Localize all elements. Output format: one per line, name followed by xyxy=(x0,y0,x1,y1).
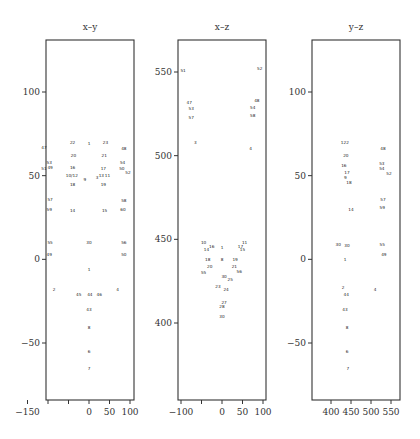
data-point-label: 23 xyxy=(103,140,109,145)
data-point-label: 14 xyxy=(348,207,354,212)
data-point-label: 4 xyxy=(249,146,252,151)
x-tick-label: 550 xyxy=(382,407,399,417)
data-point-label: 1 xyxy=(221,245,224,250)
data-point-label: 18 xyxy=(205,257,211,262)
y-tick-label: 0 xyxy=(34,254,40,264)
data-point-label: 1 xyxy=(344,257,347,262)
data-point-label: 45 xyxy=(76,292,82,297)
data-point-label: 54 xyxy=(250,105,256,110)
data-point-label: 30 xyxy=(219,314,225,319)
data-point-label: 8 xyxy=(346,325,349,330)
y-tick-label: 450 xyxy=(155,234,172,244)
data-point-label: 19 xyxy=(232,257,238,262)
data-point-label: 3 xyxy=(194,140,197,145)
data-point-label: 54 xyxy=(379,166,385,171)
data-point-label: 30 xyxy=(344,243,350,248)
y-tick-label: 50 xyxy=(29,171,41,181)
data-point-label: 15 xyxy=(102,208,108,213)
data-point-label: 18 xyxy=(70,182,76,187)
data-point-label: 23 xyxy=(215,284,221,289)
data-point-label: 18 xyxy=(346,180,352,185)
panel-x-y: x–y −150050100100500−50 2212347482021535… xyxy=(15,22,139,417)
data-point-label: 57 xyxy=(47,197,53,202)
data-point-label: 51 xyxy=(180,68,186,73)
points-x-y: 2212347482021535451491617505210/12131139… xyxy=(41,140,131,371)
data-point-label: 16 xyxy=(209,244,215,249)
data-point-label: 55 xyxy=(47,240,53,245)
data-point-label: 43 xyxy=(86,307,92,312)
data-point-label: 8 xyxy=(88,325,91,330)
data-point-label: 49 xyxy=(381,252,387,257)
x-tick-label: 50 xyxy=(237,407,249,417)
data-point-label: 44 xyxy=(87,292,93,297)
data-point-label: 25 xyxy=(228,277,234,282)
data-point-label: 22 xyxy=(344,140,350,145)
data-point-label: 58 xyxy=(250,113,256,118)
data-point-label: 48 xyxy=(380,146,386,151)
axes-x-z: −100050100550500450400 xyxy=(155,67,272,417)
data-point-label: 56 xyxy=(237,269,243,274)
data-point-label: 48 xyxy=(254,98,260,103)
data-point-label: 53 xyxy=(189,106,195,111)
x-tick-label: 0 xyxy=(86,407,92,417)
data-point-label: 47 xyxy=(41,145,47,150)
panel-title-y-z: y–z xyxy=(348,22,364,32)
points-x-z: 5152474853545758341011141617151188192021… xyxy=(180,66,262,319)
x-tick-label: 100 xyxy=(254,407,271,417)
panel-title-x-y: x–y xyxy=(83,22,99,32)
x-tick-label: 50 xyxy=(104,407,116,417)
panel-x-z: x–z −100050100550500450400 5152474853545… xyxy=(155,22,272,417)
data-point-label: 9 xyxy=(84,177,87,182)
data-point-label: 1 xyxy=(88,267,91,272)
y-tick-label: 550 xyxy=(155,67,172,77)
data-point-label: 17 xyxy=(101,166,107,171)
data-point-label: 49 xyxy=(47,165,53,170)
data-point-label: 2 xyxy=(342,285,345,290)
y-tick-label: −50 xyxy=(21,338,40,348)
panel-title-x-z: x–z xyxy=(215,22,230,32)
data-point-label: 4 xyxy=(116,287,119,292)
y-tick-label: −50 xyxy=(287,338,306,348)
data-point-label: 48 xyxy=(121,146,127,151)
plot-frame-y-z xyxy=(312,40,400,400)
y-tick-label: 50 xyxy=(295,171,307,181)
data-point-label: 43 xyxy=(342,307,348,312)
data-point-label: 51 xyxy=(41,166,47,171)
data-point-label: 52 xyxy=(257,66,263,71)
data-point-label: 16 xyxy=(341,163,347,168)
data-point-label: 7 xyxy=(88,366,91,371)
data-point-label: 20 xyxy=(343,153,349,158)
data-point-label: 49 xyxy=(47,252,53,257)
data-point-label: 59 xyxy=(47,207,53,212)
data-point-label: 6 xyxy=(88,349,91,354)
data-point-label: 30 xyxy=(336,242,342,247)
data-point-label: 4 xyxy=(374,287,377,292)
data-point-label: 30 xyxy=(221,274,227,279)
data-point-label: 57 xyxy=(189,115,195,120)
data-point-label: 7 xyxy=(346,366,349,371)
data-point-label: 14 xyxy=(70,208,76,213)
x-tick-label: 100 xyxy=(121,407,138,417)
data-point-label: 44 xyxy=(344,292,350,297)
x-tick-label: 0 xyxy=(219,407,225,417)
data-point-label: 15 xyxy=(240,247,246,252)
data-point-label: 21 xyxy=(101,153,107,158)
y-tick-label: 100 xyxy=(289,87,306,97)
data-point-label: 52 xyxy=(386,171,392,176)
chart-figure: x–y −150050100100500−50 2212347482021535… xyxy=(0,0,420,439)
data-point-label: 46 xyxy=(97,292,103,297)
data-point-label: 58 xyxy=(121,198,127,203)
data-point-label: 22 xyxy=(70,140,76,145)
data-point-label: 1 xyxy=(88,141,91,146)
x-tick-label: −150 xyxy=(15,407,40,417)
data-point-label: 24 xyxy=(223,287,229,292)
data-point-label: 52 xyxy=(125,170,131,175)
y-tick-label: 0 xyxy=(300,254,306,264)
data-point-label: 8 xyxy=(221,257,224,262)
data-point-label: 11 xyxy=(105,173,111,178)
y-tick-label: 100 xyxy=(23,87,40,97)
x-tick-label: 400 xyxy=(322,407,339,417)
data-point-label: 60 xyxy=(120,207,126,212)
x-tick-label: 450 xyxy=(342,407,359,417)
data-point-label: 2 xyxy=(53,287,56,292)
